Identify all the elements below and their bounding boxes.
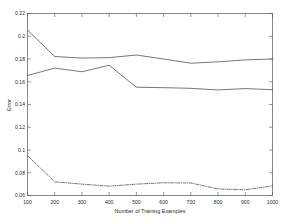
chart-figure: 1002003004005006007008009001000 0.060.08… bbox=[0, 0, 282, 223]
y-tick-label: 0.08 bbox=[15, 170, 25, 176]
x-tick-label: 500 bbox=[132, 199, 141, 205]
x-tick-label: 300 bbox=[78, 199, 87, 205]
x-axis-ticks bbox=[28, 14, 273, 196]
x-tick-label: 800 bbox=[214, 199, 223, 205]
x-axis-tick-labels: 1002003004005006007008009001000 bbox=[23, 199, 278, 205]
y-tick-label: 0.18 bbox=[15, 56, 25, 62]
plot-frame bbox=[28, 14, 273, 196]
y-tick-label: 0.16 bbox=[15, 79, 25, 85]
x-axis-label: Number of Training Examples bbox=[114, 208, 185, 214]
line-chart: 1002003004005006007008009001000 0.060.08… bbox=[0, 0, 282, 223]
data-series-series-1 bbox=[28, 30, 273, 63]
data-series-series-2 bbox=[28, 65, 273, 90]
y-axis-tick-labels: 0.060.080.10.120.140.160.180.20.22 bbox=[15, 10, 25, 198]
y-tick-label: 0.12 bbox=[15, 124, 25, 130]
y-tick-label: 0.2 bbox=[18, 33, 25, 39]
x-tick-label: 900 bbox=[241, 199, 250, 205]
x-tick-label: 600 bbox=[159, 199, 168, 205]
y-tick-label: 0.22 bbox=[15, 10, 25, 16]
x-tick-label: 400 bbox=[105, 199, 114, 205]
x-tick-label: 200 bbox=[50, 199, 59, 205]
y-axis-label: Error bbox=[6, 99, 12, 111]
data-series-layer bbox=[28, 30, 273, 190]
y-axis-ticks bbox=[28, 14, 273, 196]
y-tick-label: 0.06 bbox=[15, 192, 25, 198]
x-tick-label: 700 bbox=[187, 199, 196, 205]
x-tick-label: 1000 bbox=[267, 199, 278, 205]
x-tick-label: 100 bbox=[23, 199, 32, 205]
y-tick-label: 0.1 bbox=[18, 147, 25, 153]
data-series-series-3 bbox=[28, 156, 273, 190]
y-tick-label: 0.14 bbox=[15, 101, 25, 107]
